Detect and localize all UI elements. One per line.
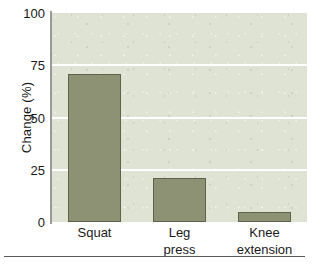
x-axis-tick-labels: SquatLegpressKneeextension: [52, 224, 307, 264]
bar-chart-figure: Change (%) 1007550250 SquatLegpressKneee…: [0, 0, 319, 265]
x-tick-label-line: Knee: [237, 224, 293, 241]
y-tick-label: 100: [0, 6, 50, 21]
plot-area: [52, 13, 307, 222]
x-tick-label: Legpress: [164, 224, 196, 258]
x-tick-label-line: Squat: [78, 224, 112, 241]
x-tick-label: Kneeextension: [237, 224, 293, 258]
y-axis-tick-labels: 1007550250: [0, 13, 50, 222]
y-tick-label: 25: [0, 162, 50, 177]
gridline: [52, 64, 307, 66]
y-tick-label: 50: [0, 110, 50, 125]
bar: [238, 212, 291, 222]
bottom-rule: [4, 256, 305, 257]
y-tick-label: 0: [0, 215, 50, 230]
bar: [153, 178, 206, 222]
y-tick-label: 75: [0, 58, 50, 73]
bar: [68, 74, 121, 222]
x-tick-label: Squat: [78, 224, 112, 241]
x-tick-label-line: Leg: [164, 224, 196, 241]
